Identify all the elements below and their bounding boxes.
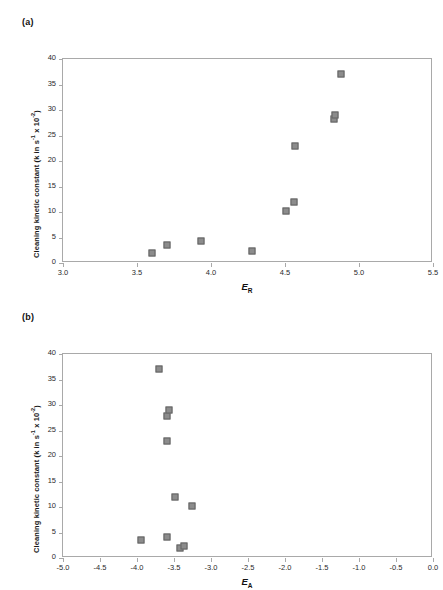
y-tick-label: 35 (48, 374, 56, 383)
tick-mark (433, 263, 434, 267)
tick-mark (59, 431, 63, 432)
x-tick-label: 5.5 (428, 268, 438, 277)
y-tick-label: 40 (48, 53, 56, 62)
tick-mark (285, 263, 286, 267)
y-tick-label: 0 (52, 257, 56, 266)
x-tick-label: -4.0 (131, 563, 144, 572)
tick-mark (59, 380, 63, 381)
y-tick-label: 10 (48, 206, 56, 215)
tick-mark (359, 558, 360, 562)
tick-mark (433, 558, 434, 562)
y-tick-label: 5 (52, 527, 56, 536)
y-tick-label: 5 (52, 232, 56, 241)
x-tick-label: -2.5 (242, 563, 255, 572)
y-tick-label: 15 (48, 476, 56, 485)
tick-mark (59, 136, 63, 137)
y-tick-label: 35 (48, 79, 56, 88)
x-tick-label: -3.5 (168, 563, 181, 572)
data-point (249, 248, 256, 255)
figure-two-panel-scatter: (a) Cleaning kinetic constant (k in s-1 … (0, 0, 443, 590)
tick-mark (211, 558, 212, 562)
panel-b-label: (b) (22, 312, 34, 322)
x-tick-label: 3.0 (58, 268, 68, 277)
tick-mark (59, 456, 63, 457)
tick-mark (100, 558, 101, 562)
tick-mark (322, 558, 323, 562)
tick-mark (59, 482, 63, 483)
tick-mark (59, 354, 63, 355)
panel-b: (b) Cleaning kinetic constant (k in s-1 … (0, 295, 443, 590)
panel-b-y-axis-label: Cleaning kinetic constant (k in s-1 x 10… (30, 405, 41, 553)
x-tick-label: -4.5 (94, 563, 107, 572)
y-tick-label: 25 (48, 130, 56, 139)
panel-a-y-axis-label: Cleaning kinetic constant (k in s-1 x 10… (30, 110, 41, 258)
panel-a: (a) Cleaning kinetic constant (k in s-1 … (0, 0, 443, 295)
y-tick-label: 25 (48, 425, 56, 434)
tick-mark (137, 558, 138, 562)
tick-mark (59, 110, 63, 111)
x-tick-label: 5.0 (354, 268, 364, 277)
y-tick-label: 20 (48, 450, 56, 459)
tick-mark (59, 507, 63, 508)
data-point (338, 71, 345, 78)
panel-a-label: (a) (22, 17, 34, 27)
tick-mark (59, 212, 63, 213)
panel-a-plot-area: 05101520253035403.03.54.04.55.05.5 (62, 58, 432, 262)
x-tick-label: -5.0 (57, 563, 70, 572)
tick-mark (59, 161, 63, 162)
tick-mark (285, 558, 286, 562)
data-point (163, 533, 170, 540)
data-point (156, 366, 163, 373)
y-tick-label: 10 (48, 501, 56, 510)
x-tick-label: -0.5 (390, 563, 403, 572)
tick-mark (59, 405, 63, 406)
data-point (165, 407, 172, 414)
tick-mark (174, 558, 175, 562)
x-tick-label: 0.0 (428, 563, 438, 572)
y-tick-label: 40 (48, 348, 56, 357)
data-point (163, 242, 170, 249)
data-point (163, 437, 170, 444)
data-point (137, 537, 144, 544)
y-tick-label: 20 (48, 155, 56, 164)
data-point (290, 198, 297, 205)
tick-mark (59, 238, 63, 239)
data-point (148, 249, 155, 256)
tick-mark (248, 558, 249, 562)
data-point (332, 111, 339, 118)
panel-b-x-axis-label: EA (241, 576, 252, 589)
x-tick-label: 4.0 (206, 268, 216, 277)
data-point (171, 493, 178, 500)
y-tick-label: 30 (48, 104, 56, 113)
tick-mark (59, 85, 63, 86)
panel-b-plot-area: 0510152025303540-5.0-4.5-4.0-3.5-3.0-2.5… (62, 353, 432, 557)
x-tick-label: -1.5 (316, 563, 329, 572)
x-tick-label: 4.5 (280, 268, 290, 277)
panel-a-x-axis-label: ER (241, 281, 252, 294)
y-tick-label: 15 (48, 181, 56, 190)
data-point (188, 503, 195, 510)
tick-mark (59, 533, 63, 534)
x-tick-label: 3.5 (132, 268, 142, 277)
tick-mark (137, 263, 138, 267)
tick-mark (59, 59, 63, 60)
x-tick-label: -1.0 (353, 563, 366, 572)
tick-mark (63, 263, 64, 267)
data-point (181, 543, 188, 550)
x-tick-label: -3.0 (205, 563, 218, 572)
x-tick-label: -2.0 (279, 563, 292, 572)
data-point (283, 208, 290, 215)
tick-mark (59, 187, 63, 188)
tick-mark (359, 263, 360, 267)
tick-mark (211, 263, 212, 267)
data-point (197, 238, 204, 245)
y-tick-label: 0 (52, 552, 56, 561)
y-tick-label: 30 (48, 399, 56, 408)
tick-mark (396, 558, 397, 562)
tick-mark (63, 558, 64, 562)
data-point (292, 142, 299, 149)
